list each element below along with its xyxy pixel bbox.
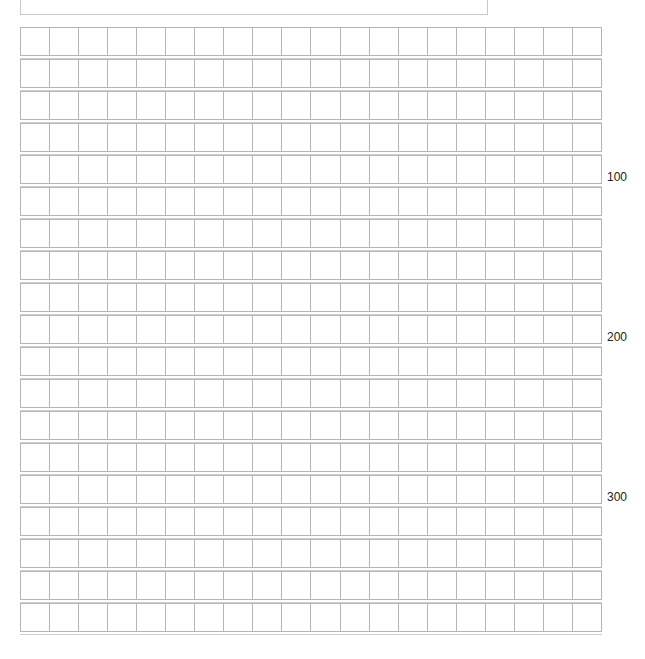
grid-cell bbox=[311, 572, 340, 599]
grid-cell bbox=[21, 476, 50, 503]
grid-cell bbox=[50, 156, 79, 183]
grid-cell bbox=[573, 284, 601, 311]
grid-cell bbox=[573, 124, 601, 151]
grid-cell bbox=[79, 412, 108, 439]
grid-cell bbox=[457, 380, 486, 407]
grid-cell bbox=[486, 540, 515, 567]
grid-row bbox=[20, 59, 602, 88]
grid-row bbox=[20, 283, 602, 312]
grid-cell bbox=[428, 444, 457, 471]
grid-cell bbox=[282, 188, 311, 215]
grid-cell bbox=[428, 604, 457, 631]
grid-row bbox=[20, 187, 602, 216]
grid-cell bbox=[341, 252, 370, 279]
grid-cell bbox=[311, 156, 340, 183]
grid-cell bbox=[486, 508, 515, 535]
grid-cell bbox=[486, 476, 515, 503]
grid-cell bbox=[137, 28, 166, 55]
grid-cell bbox=[79, 252, 108, 279]
grid-row bbox=[20, 251, 602, 280]
grid-cell bbox=[50, 124, 79, 151]
grid-cell bbox=[457, 572, 486, 599]
grid-cell bbox=[486, 156, 515, 183]
grid-cell bbox=[399, 220, 428, 247]
grid-cell bbox=[515, 540, 544, 567]
grid-cell bbox=[341, 316, 370, 343]
grid-cell bbox=[311, 220, 340, 247]
grid-cell bbox=[544, 92, 573, 119]
grid-cell bbox=[195, 220, 224, 247]
grid-cell bbox=[166, 604, 195, 631]
grid-cell bbox=[428, 380, 457, 407]
grid-cell bbox=[311, 28, 340, 55]
grid-cell bbox=[311, 508, 340, 535]
grid-cell bbox=[311, 444, 340, 471]
grid-cell bbox=[544, 508, 573, 535]
grid-cell bbox=[79, 540, 108, 567]
grid-cell bbox=[399, 508, 428, 535]
grid-cell bbox=[311, 348, 340, 375]
grid-cell bbox=[341, 604, 370, 631]
grid-cell bbox=[253, 188, 282, 215]
grid-cell bbox=[370, 380, 399, 407]
grid-row bbox=[20, 571, 602, 600]
grid-cell bbox=[573, 444, 601, 471]
grid-cell bbox=[282, 444, 311, 471]
grid-cell bbox=[108, 508, 137, 535]
grid-cell bbox=[253, 348, 282, 375]
grid-cell bbox=[428, 188, 457, 215]
grid-cell bbox=[21, 444, 50, 471]
grid-row bbox=[20, 347, 602, 376]
grid-cell bbox=[166, 540, 195, 567]
grid-cell bbox=[79, 604, 108, 631]
grid-cell bbox=[486, 28, 515, 55]
grid-cell bbox=[370, 604, 399, 631]
grid-cell bbox=[166, 380, 195, 407]
grid-cell bbox=[341, 540, 370, 567]
grid-row bbox=[20, 507, 602, 536]
grid-cell bbox=[195, 572, 224, 599]
grid-cell bbox=[457, 188, 486, 215]
grid-cell bbox=[544, 124, 573, 151]
grid-cell bbox=[137, 508, 166, 535]
grid-cell bbox=[573, 188, 601, 215]
grid-cell bbox=[311, 124, 340, 151]
grid-cell bbox=[515, 60, 544, 87]
grid-cell bbox=[253, 604, 282, 631]
grid-cell bbox=[79, 380, 108, 407]
grid-cell bbox=[253, 252, 282, 279]
grid-cell bbox=[457, 28, 486, 55]
grid-cell bbox=[21, 380, 50, 407]
grid-cell bbox=[224, 188, 253, 215]
grid-cell bbox=[166, 28, 195, 55]
grid-cell bbox=[486, 604, 515, 631]
grid-cell bbox=[428, 60, 457, 87]
grid-cell bbox=[486, 188, 515, 215]
grid-cell bbox=[137, 540, 166, 567]
grid-cell bbox=[457, 540, 486, 567]
grid-cell bbox=[515, 28, 544, 55]
grid-cell bbox=[195, 540, 224, 567]
grid-cell bbox=[108, 348, 137, 375]
grid-cell bbox=[311, 284, 340, 311]
grid-cell bbox=[515, 508, 544, 535]
grid-cell bbox=[573, 572, 601, 599]
grid-cell bbox=[399, 604, 428, 631]
grid-cell bbox=[457, 476, 486, 503]
grid-cell bbox=[341, 508, 370, 535]
grid-cell bbox=[224, 380, 253, 407]
grid-cell bbox=[137, 444, 166, 471]
grid-cell bbox=[370, 252, 399, 279]
grid-cell bbox=[224, 540, 253, 567]
grid-cell bbox=[195, 316, 224, 343]
grid-cell bbox=[399, 124, 428, 151]
grid-cell bbox=[515, 92, 544, 119]
grid-cell bbox=[79, 572, 108, 599]
grid-cell bbox=[370, 124, 399, 151]
grid-cell bbox=[108, 124, 137, 151]
grid-cell bbox=[573, 508, 601, 535]
grid-cell bbox=[21, 540, 50, 567]
count-marker: 300 bbox=[607, 490, 627, 504]
grid-cell bbox=[370, 508, 399, 535]
grid-cell bbox=[21, 28, 50, 55]
